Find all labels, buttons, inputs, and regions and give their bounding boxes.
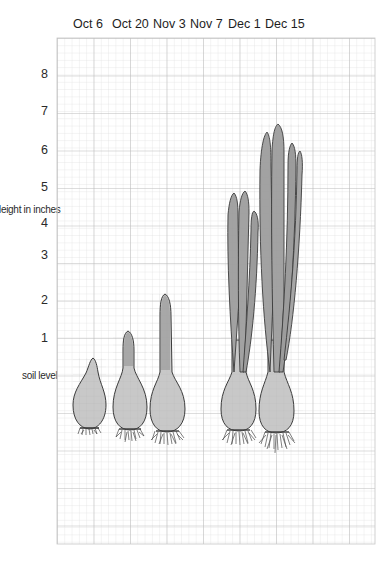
bulb-dec-15 [259, 124, 303, 453]
bulb-dec-1 [221, 191, 259, 445]
bulb-oct-20 [113, 331, 147, 442]
bulb-oct-6 [73, 358, 106, 435]
grid [57, 38, 375, 544]
bulb-nov-3 [150, 294, 185, 445]
graph-paper-illustration [0, 0, 392, 571]
